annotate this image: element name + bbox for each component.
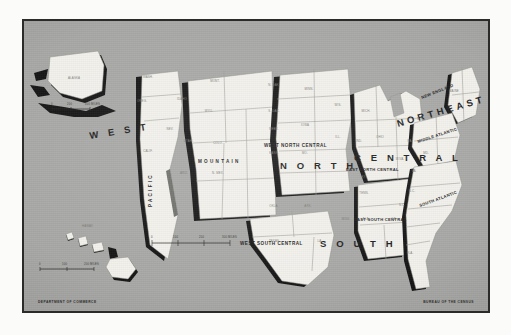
state-label: N.C. [409,189,415,193]
region-label-central: C E N T R A L [354,152,461,163]
alaska-scale-200: 200 [67,102,72,106]
state-label: W.VA. [396,157,405,161]
state-label: OHIO [376,135,385,139]
state-label: MONT. [210,79,220,83]
main-scale-200: 200 [199,235,204,239]
division-label-east-north-central: EAST NORTH CENTRAL [346,167,399,172]
state-label: KANS. [269,151,278,155]
division-label-west-north-central: WEST NORTH CENTRAL [264,143,327,148]
state-label: TENN. [359,191,368,195]
state-label: VA. [412,169,417,173]
hawaii-scale-0: 0 [39,262,41,266]
state-label: ARIZ. [180,171,188,175]
state-label: N. DAK. [268,83,280,87]
state-label: LA. [318,239,323,243]
division-mountain [182,71,276,221]
state-label: FLA. [407,251,414,255]
state-label: TEXAS [269,239,279,243]
state-label: S. DAK. [268,109,279,113]
state-label: OKLA. [269,204,278,208]
state-label: CALIF. [143,149,153,153]
map-plate: ALASKA 0 200 400 MILES HAWAII [22,19,490,313]
state-label: NEV. [166,127,173,131]
state-label: WYO. [205,109,213,113]
state-label: MICH. [362,109,371,113]
state-label: ALA. [363,217,370,221]
state-label: ILL. [335,135,340,139]
hawaii-scale-200: 200 MILES [84,262,99,266]
main-scale-300: 300 MILES [222,235,237,239]
hawaii-scale-bar: 0 100 200 MILES [39,262,99,271]
alaska-scale-0: 0 [51,102,53,106]
state-label: WASH. [143,75,153,79]
state-label: N.Y. [417,117,423,121]
credit-left: DEPARTMENT OF COMMERCE [38,300,97,304]
state-label: S.C. [399,203,405,207]
inset-hawaii: HAWAII 0 100 200 MILES [39,224,138,282]
inset-label-alaska: ALASKA [68,76,80,80]
state-label: OREG. [137,99,147,103]
main-scale-0: 0 [151,235,153,239]
division-label-mountain: M O U N T A I N [198,159,239,164]
inset-label-hawaii: HAWAII [82,224,93,228]
division-south-atlantic [402,161,462,291]
state-label: IDAHO [177,97,188,101]
division-label-pacific: P A C I F I C [148,175,153,207]
state-label: IOWA [301,123,309,127]
state-label: WIS. [335,103,342,107]
state-label: KY. [362,175,367,179]
state-label: MD. [423,151,429,155]
state-label: IND. [356,139,362,143]
inset-alaska: ALASKA 0 200 400 MILES [30,51,116,117]
state-label: N. MEX. [212,171,224,175]
screenshot-root: ALASKA 0 200 400 MILES HAWAII [0,0,511,335]
state-label: MINN. [305,87,314,91]
division-west-south-central [246,211,334,287]
hawaii-scale-100: 100 [62,262,67,266]
credit-right: BUREAU OF THE CENSUS [423,300,474,304]
state-label: MAINE [449,89,459,93]
region-label-south: S O U T H [320,238,396,249]
state-label: COLO. [213,141,223,145]
state-label: NEBR. [269,127,279,131]
state-label: UTAH [184,139,192,143]
relief-map: ALASKA 0 200 400 MILES HAWAII [24,21,488,311]
main-scale-100: 100 [173,235,178,239]
alaska-scale-400: 400 MILES [85,102,100,106]
state-label: GA. [391,217,396,221]
state-label: PA. [408,139,413,143]
state-label: MISS. [342,217,351,221]
state-label: ARK. [304,204,311,208]
state-label: MO. [302,151,308,155]
